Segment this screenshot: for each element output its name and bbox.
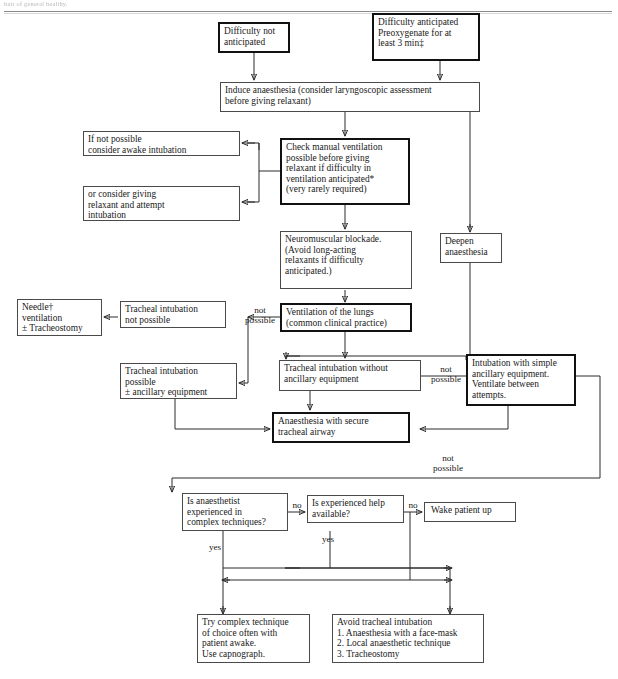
node-is-anaesthetist-experienced: Is anaesthetist experienced in complex t… <box>182 493 288 531</box>
node-label: If not possible consider awake intubatio… <box>84 132 239 155</box>
edge-label-no-1: no <box>288 500 306 510</box>
edge-label-yes-1: yes <box>203 542 227 552</box>
node-tracheal-intubation-not-possible: Tracheal intubation not possible <box>120 301 226 328</box>
node-check-manual-ventilation: Check manual ventilation possible before… <box>280 138 410 205</box>
edge-label-no-2: no <box>404 500 422 510</box>
node-avoid-tracheal-intubation: Avoid tracheal intubation 1. Anaesthesia… <box>332 614 484 663</box>
node-label: Avoid tracheal intubation 1. Anaesthesia… <box>333 615 483 659</box>
node-label: or consider giving relaxant and attempt … <box>84 187 239 221</box>
node-needle-ventilation: Needle† ventilation ± Tracheostomy <box>17 299 102 336</box>
node-difficulty-anticipated: Difficulty anticipated Preoxygenate for … <box>372 13 480 61</box>
node-label: Wake patient up <box>425 503 515 516</box>
node-label: Check manual ventilation possible before… <box>282 140 408 195</box>
node-anaesthesia-secure-airway: Anaesthesia with secure tracheal airway <box>272 412 410 443</box>
node-ventilation-of-lungs: Ventilation of the lungs (common clinica… <box>280 303 412 332</box>
node-label: Intubation with simple ancillary equipme… <box>468 356 574 400</box>
node-label: Is experienced help available? <box>308 496 403 519</box>
node-label: Tracheal intubation without ancillary eq… <box>280 361 420 384</box>
node-wake-patient-up: Wake patient up <box>424 502 516 522</box>
node-label: Induce anaesthesia (consider laryngoscop… <box>221 83 479 106</box>
node-label: Difficulty not anticipated <box>220 24 288 47</box>
node-label: Difficulty anticipated Preoxygenate for … <box>374 15 478 49</box>
node-label: Needle† ventilation ± Tracheostomy <box>18 300 101 334</box>
node-tracheal-intubation-possible: Tracheal intubation possible ± ancillary… <box>120 363 237 399</box>
node-intubation-with-simple: Intubation with simple ancillary equipme… <box>466 354 576 406</box>
node-if-not-possible-awake: If not possible consider awake intubatio… <box>83 131 240 156</box>
edge-label-yes-2: yes <box>316 534 340 544</box>
node-try-complex-technique: Try complex technique of choice often wi… <box>197 614 310 663</box>
node-or-consider-giving: or consider giving relaxant and attempt … <box>83 186 240 221</box>
node-label: Deepen anaesthesia <box>441 234 501 257</box>
edge-label-not-possible-2: not possible <box>424 364 468 385</box>
node-label: Anaesthesia with secure tracheal airway <box>274 414 408 437</box>
node-label: Try complex technique of choice often wi… <box>198 615 309 659</box>
node-neuromuscular-blockade: Neuromuscular blockade. (Avoid long-acti… <box>280 231 412 289</box>
edge-label-not-possible-3: not possible <box>426 453 470 474</box>
node-label: Tracheal intubation possible ± ancillary… <box>121 364 236 398</box>
node-difficulty-not-anticipated: Difficulty not anticipated <box>218 22 290 53</box>
flowchart-root: hair of general healthy. <box>0 0 618 679</box>
node-label: Neuromuscular blockade. (Avoid long-acti… <box>281 232 411 276</box>
node-label: Ventilation of the lungs (common clinica… <box>282 305 410 328</box>
edge-label-not-possible-1: not possible <box>238 305 282 326</box>
node-label: Is anaesthetist experienced in complex t… <box>183 494 287 528</box>
node-is-experienced-help: Is experienced help available? <box>307 495 404 523</box>
node-tracheal-intubation-without: Tracheal intubation without ancillary eq… <box>279 360 421 391</box>
node-deepen-anaesthesia: Deepen anaesthesia <box>440 233 502 263</box>
node-induce-anaesthesia: Induce anaesthesia (consider laryngoscop… <box>220 82 480 112</box>
node-label: Tracheal intubation not possible <box>121 302 225 325</box>
